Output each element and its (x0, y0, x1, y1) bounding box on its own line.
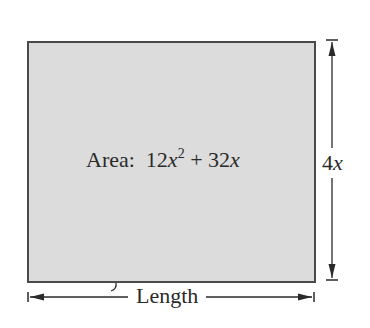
dimension-arrows (0, 0, 370, 328)
length-label: Length (128, 283, 206, 309)
height-coef: 4 (322, 150, 333, 175)
height-label: 4x (322, 148, 343, 178)
height-var: x (333, 150, 343, 175)
